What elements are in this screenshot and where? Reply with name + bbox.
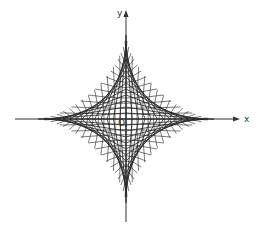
y-axis-arrowhead-icon [124, 10, 129, 17]
x-axis-label: x [244, 114, 250, 124]
y-axis-label: y [117, 8, 123, 18]
origin-label: O [118, 118, 125, 128]
x-axis-arrowhead-icon [233, 117, 240, 122]
astroid-diagram: x y O [0, 0, 259, 228]
